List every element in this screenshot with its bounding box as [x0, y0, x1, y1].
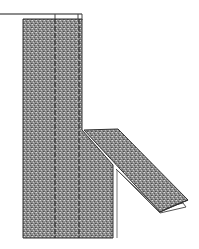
diagram-canvas	[0, 0, 199, 249]
sewing-diagram	[0, 0, 199, 249]
fabric-panel	[23, 19, 117, 238]
